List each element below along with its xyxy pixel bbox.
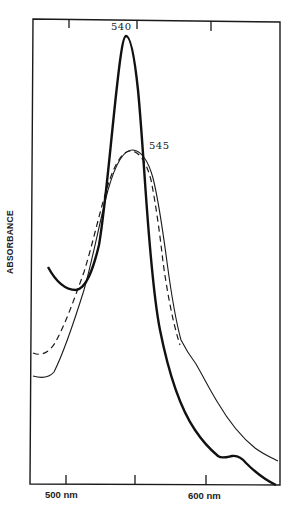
y-axis-label: ABSORBANCE <box>5 214 19 274</box>
x-tick-label-500: 500 nm <box>45 489 78 500</box>
bottom-ticks <box>66 475 206 485</box>
x-tick-label-600: 600 nm <box>188 490 221 501</box>
absorbance-spectrum-chart <box>0 0 294 514</box>
peak-label-545: 545 <box>149 140 170 151</box>
plot-frame <box>30 19 280 485</box>
heavy-solid-curve <box>48 36 276 485</box>
peak-label-540: 540 <box>111 21 132 32</box>
